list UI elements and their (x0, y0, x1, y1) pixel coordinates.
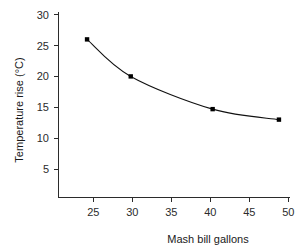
plot-area: 51015202530 253035404550 (37, 9, 295, 218)
x-tick-label: 50 (282, 206, 294, 218)
x-tick-label: 30 (126, 206, 138, 218)
x-tick-label: 40 (204, 206, 216, 218)
data-series-markers (85, 37, 281, 122)
y-tick-label: 15 (37, 101, 49, 113)
x-axis-title: Mash bill gallons (167, 233, 249, 245)
y-tick-label: 5 (43, 163, 49, 175)
data-point-marker (85, 37, 89, 41)
y-tick-label: 10 (37, 132, 49, 144)
y-tick-label: 30 (37, 9, 49, 21)
y-tick-label: 20 (37, 70, 49, 82)
y-tick-label: 25 (37, 40, 49, 52)
chart-svg: 51015202530 253035404550 Mash bill gallo… (0, 0, 304, 252)
x-tick-label: 35 (165, 206, 177, 218)
x-tick-label: 45 (243, 206, 255, 218)
x-axis-ticks: 253035404550 (87, 197, 294, 218)
data-point-marker (277, 117, 281, 121)
y-axis-ticks: 51015202530 (37, 9, 58, 175)
y-axis-title: Temperature rise (°C) (13, 57, 25, 162)
data-series-line (87, 39, 279, 119)
chart-figure: 51015202530 253035404550 Mash bill gallo… (0, 0, 304, 252)
data-point-marker (210, 107, 214, 111)
data-point-marker (129, 74, 133, 78)
x-tick-label: 25 (87, 206, 99, 218)
